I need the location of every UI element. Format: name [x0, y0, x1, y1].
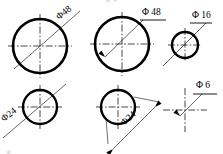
dimension-arrowhead — [173, 109, 180, 116]
circle-phi24-external-dimension: Φ24 — [96, 85, 162, 154]
dimension-label: Φ24 — [0, 105, 18, 123]
dimension-label: Φ 6 — [196, 80, 210, 90]
dimension-label: Φ 48 — [142, 7, 161, 17]
dimension-label: Φ 16 — [192, 10, 211, 20]
extension-line — [134, 97, 159, 102]
drawing-canvas: Φ48Φ 48Φ 16Φ24Φ24Φ 6 — [0, 0, 223, 154]
dimension-arrowhead — [106, 149, 113, 154]
dimension-label: Φ48 — [54, 3, 73, 21]
crosshair-phi6-leader: Φ 6 — [163, 80, 217, 132]
circle-phi48-arrow-leader: Φ 48 — [90, 7, 166, 76]
leader-line — [105, 20, 143, 57]
drawing-sheet: Ф 4 Φ48Φ 48Φ 16Φ24Φ24Φ 6 Ф — [0, 0, 223, 154]
circle-phi16-diagonal-leader: Φ 16 — [163, 10, 212, 66]
circle-phi24-through-leader: Φ24 — [0, 84, 66, 138]
dimension-arrowhead — [98, 50, 105, 57]
circle-phi48-through-leader: Φ48 — [8, 3, 80, 78]
leader-line — [180, 94, 202, 116]
leader-line — [163, 23, 206, 66]
